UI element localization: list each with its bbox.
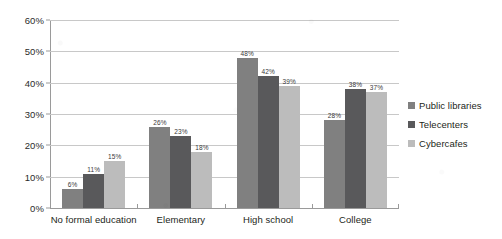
bar-value-label: 38% xyxy=(349,81,362,88)
x-axis-category-label: No formal education xyxy=(50,214,137,225)
legend-item[interactable]: Public libraries xyxy=(408,100,482,111)
x-axis-tick-mark xyxy=(225,204,226,208)
bar[interactable]: 26% xyxy=(149,127,170,208)
gridline xyxy=(50,208,399,209)
bar-slot: 48% xyxy=(237,20,258,208)
x-axis-tick-mark xyxy=(398,204,399,208)
bar-value-label: 26% xyxy=(153,119,166,126)
y-axis-tick-label: 10% xyxy=(25,171,44,182)
legend-swatch-icon xyxy=(408,102,415,109)
bar-slot: 23% xyxy=(170,20,191,208)
bar-value-label: 11% xyxy=(87,166,100,173)
x-axis-tick-mark xyxy=(50,204,51,208)
x-axis-category-label: Elementary xyxy=(137,214,224,225)
legend-item[interactable]: Telecenters xyxy=(408,119,482,130)
legend-item[interactable]: Cybercafes xyxy=(408,138,482,149)
bar-slot: 15% xyxy=(104,20,125,208)
bar-group: 26%23%18% xyxy=(137,20,224,208)
bar[interactable]: 37% xyxy=(366,92,387,208)
legend-label: Telecenters xyxy=(419,119,468,130)
bar-slot: 39% xyxy=(279,20,300,208)
x-axis-labels: No formal educationElementaryHigh school… xyxy=(50,214,399,225)
y-axis-tick-label: 50% xyxy=(25,46,44,57)
bar-group: 48%42%39% xyxy=(225,20,312,208)
y-axis-tick-label: 40% xyxy=(25,77,44,88)
bar-slot: 18% xyxy=(191,20,212,208)
bar-slot: 42% xyxy=(258,20,279,208)
bar[interactable]: 18% xyxy=(191,152,212,208)
legend-swatch-icon xyxy=(408,140,415,147)
legend: Public librariesTelecentersCybercafes xyxy=(408,100,482,149)
bar[interactable]: 11% xyxy=(83,174,104,208)
bar[interactable]: 15% xyxy=(104,161,125,208)
bar-value-label: 48% xyxy=(240,50,253,57)
x-axis-tick-mark xyxy=(312,204,313,208)
bar-slot: 37% xyxy=(366,20,387,208)
y-axis-tick-label: 20% xyxy=(25,140,44,151)
bar-slot: 26% xyxy=(149,20,170,208)
bar[interactable]: 6% xyxy=(62,189,83,208)
bar[interactable]: 42% xyxy=(258,76,279,208)
bar-value-label: 15% xyxy=(108,153,121,160)
bar-value-label: 6% xyxy=(68,181,78,188)
x-axis-tick-mark xyxy=(137,204,138,208)
bar-value-label: 23% xyxy=(174,128,187,135)
x-axis-category-label: College xyxy=(312,214,399,225)
bar-value-label: 37% xyxy=(370,84,383,91)
bar[interactable]: 48% xyxy=(237,58,258,208)
bar-group: 6%11%15% xyxy=(50,20,137,208)
y-axis-tick-label: 60% xyxy=(25,15,44,26)
bar-value-label: 42% xyxy=(261,68,274,75)
y-axis-tick-label: 30% xyxy=(25,109,44,120)
x-axis-category-label: High school xyxy=(225,214,312,225)
bar-slot: 38% xyxy=(345,20,366,208)
y-axis-tick-label: 0% xyxy=(30,203,44,214)
bar-slot: 11% xyxy=(83,20,104,208)
legend-label: Cybercafes xyxy=(419,138,468,149)
bar[interactable]: 38% xyxy=(345,89,366,208)
plot-area: 0%10%20%30%40%50%60% 6%11%15%26%23%18%48… xyxy=(50,20,399,208)
legend-label: Public libraries xyxy=(419,100,482,111)
bar-value-label: 28% xyxy=(328,112,341,119)
bar-groups: 6%11%15%26%23%18%48%42%39%28%38%37% xyxy=(50,20,399,208)
bar-slot: 6% xyxy=(62,20,83,208)
bar-group: 28%38%37% xyxy=(312,20,399,208)
legend-swatch-icon xyxy=(408,121,415,128)
bar[interactable]: 23% xyxy=(170,136,191,208)
bar[interactable]: 39% xyxy=(279,86,300,208)
bar-chart: 0%10%20%30%40%50%60% 6%11%15%26%23%18%48… xyxy=(0,0,502,239)
bar-value-label: 39% xyxy=(282,78,295,85)
bar[interactable]: 28% xyxy=(324,120,345,208)
bar-slot: 28% xyxy=(324,20,345,208)
bar-value-label: 18% xyxy=(195,144,208,151)
